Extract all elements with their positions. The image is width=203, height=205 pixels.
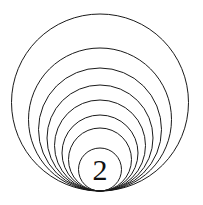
center-number-label: 2	[0, 155, 202, 185]
figure-canvas: 2	[0, 0, 203, 205]
